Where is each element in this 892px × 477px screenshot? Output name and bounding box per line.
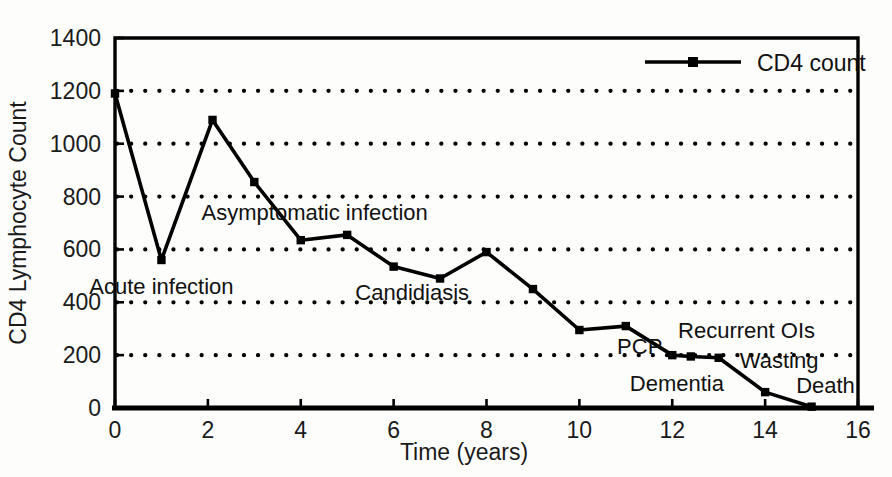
x-tick-label-2: 2 bbox=[201, 417, 214, 443]
y-tick-label-600: 600 bbox=[63, 236, 101, 262]
legend-marker-sample bbox=[688, 57, 698, 67]
y-tick-label-0: 0 bbox=[88, 395, 101, 421]
legend-label-cd4-count: CD4 count bbox=[757, 50, 866, 76]
data-point-2 bbox=[208, 116, 216, 124]
data-point-9 bbox=[529, 285, 537, 293]
y-tick-label-1200: 1200 bbox=[50, 78, 101, 104]
y-tick-label-1400: 1400 bbox=[50, 25, 101, 51]
data-point-8 bbox=[482, 248, 490, 256]
x-tick-label-4: 4 bbox=[294, 417, 307, 443]
chart-annotations: Acute infectionAsymptomatic infectionCan… bbox=[89, 200, 855, 398]
x-tick-label-12: 12 bbox=[659, 417, 685, 443]
x-tick-label-10: 10 bbox=[567, 417, 593, 443]
x-tick-label-16: 16 bbox=[845, 417, 871, 443]
data-point-14 bbox=[714, 354, 722, 362]
data-point-5 bbox=[343, 231, 351, 239]
data-point-15 bbox=[761, 388, 769, 396]
y-tick-label-1000: 1000 bbox=[50, 131, 101, 157]
legend: CD4 count bbox=[645, 50, 866, 76]
annotation-wasting: Wasting bbox=[740, 348, 819, 373]
x-axis-title: Time (years) bbox=[400, 439, 528, 465]
data-point-3 bbox=[250, 178, 258, 186]
data-point-13 bbox=[687, 352, 695, 360]
x-tick-label-14: 14 bbox=[752, 417, 778, 443]
data-point-12 bbox=[668, 351, 676, 359]
data-point-16 bbox=[807, 402, 815, 410]
data-point-4 bbox=[297, 236, 305, 244]
chart-canvas: 02468101214160200400600800100012001400 A… bbox=[0, 0, 892, 477]
annotation-recurrent-ois: Recurrent OIs bbox=[678, 318, 815, 343]
x-tick-label-6: 6 bbox=[387, 417, 400, 443]
data-point-1 bbox=[157, 256, 165, 264]
data-point-11 bbox=[622, 322, 630, 330]
cd4-progression-chart: 02468101214160200400600800100012001400 A… bbox=[0, 0, 892, 477]
data-point-0 bbox=[111, 89, 119, 97]
y-tick-label-200: 200 bbox=[63, 342, 101, 368]
y-axis-title: CD4 Lymphocyte Count bbox=[5, 101, 31, 345]
annotation-candidiasis: Candidiasis bbox=[355, 280, 469, 305]
annotation-pcp: PCP bbox=[617, 334, 662, 359]
data-point-6 bbox=[389, 262, 397, 270]
y-tick-label-800: 800 bbox=[63, 184, 101, 210]
annotation-acute-infection: Acute infection bbox=[89, 274, 233, 299]
x-tick-label-0: 0 bbox=[109, 417, 122, 443]
annotation-dementia: Dementia bbox=[630, 371, 725, 396]
data-point-10 bbox=[575, 326, 583, 334]
annotation-death: Death bbox=[796, 373, 855, 398]
annotation-asymptomatic-infection: Asymptomatic infection bbox=[202, 200, 428, 225]
cd4-count-line bbox=[115, 94, 812, 407]
